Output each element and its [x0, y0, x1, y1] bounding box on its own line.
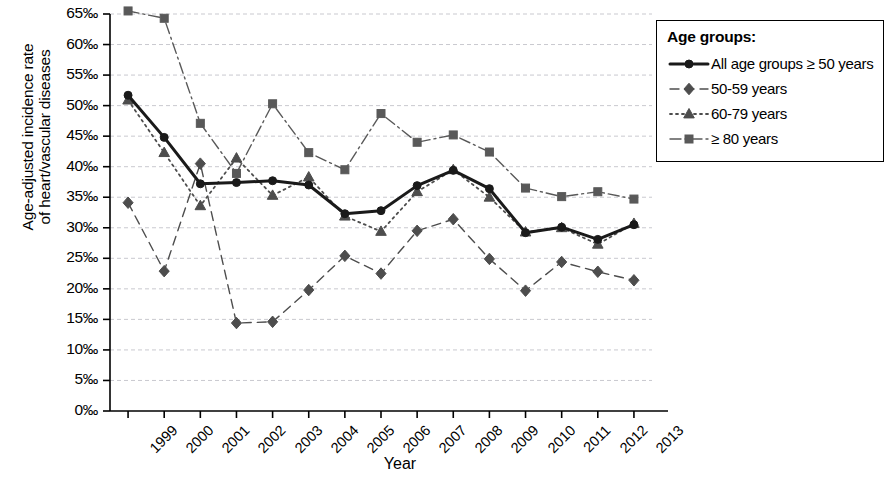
data-point-circle — [449, 166, 457, 174]
legend-title: Age groups: — [667, 28, 883, 46]
legend-label: 60-79 years — [711, 105, 787, 122]
data-point-square — [160, 14, 168, 22]
data-point-square — [377, 110, 385, 118]
data-point-circle — [522, 229, 530, 237]
legend-item-diamond: 50-59 years — [667, 76, 883, 101]
legend-swatch-diamond — [667, 79, 711, 99]
data-point-diamond — [448, 213, 458, 225]
data-point-triangle — [684, 108, 695, 117]
data-point-circle — [196, 180, 204, 188]
data-point-circle — [685, 60, 693, 68]
series-square — [124, 7, 638, 203]
y-tick-label: 15‰ — [32, 309, 98, 327]
y-tick-label: 30‰ — [32, 218, 98, 236]
data-point-triangle — [231, 153, 242, 162]
data-point-circle — [377, 207, 385, 215]
y-tick-label: 5‰ — [32, 370, 98, 388]
data-point-diamond — [629, 275, 639, 287]
data-point-circle — [341, 210, 349, 218]
data-point-square — [522, 184, 530, 192]
data-point-square — [594, 188, 602, 196]
y-tick-label: 60‰ — [32, 35, 98, 53]
data-point-circle — [269, 177, 277, 185]
y-tick-label: 25‰ — [32, 248, 98, 266]
legend-label: 50-59 years — [711, 80, 787, 97]
y-tick-label: 65‰ — [32, 4, 98, 22]
data-point-circle — [232, 179, 240, 187]
chart-figure: Age-adjusted incidence rate of heart/vas… — [0, 0, 888, 483]
data-point-square — [449, 131, 457, 139]
y-tick-label: 20‰ — [32, 279, 98, 297]
data-point-triangle — [303, 172, 314, 181]
data-point-circle — [558, 223, 566, 231]
data-point-circle — [413, 182, 421, 190]
data-point-square — [196, 119, 204, 127]
legend-label: ≥ 80 years — [711, 130, 778, 147]
x-axis-label: Year — [270, 455, 530, 473]
y-tick-label: 0‰ — [32, 401, 98, 419]
data-point-circle — [124, 91, 132, 99]
y-tick-label: 10‰ — [32, 340, 98, 358]
data-point-diamond — [159, 265, 169, 277]
legend-rows: All age groups ≥ 50 years50-59 years60-7… — [667, 51, 883, 151]
data-point-triangle — [159, 147, 170, 156]
y-tick-label: 40‰ — [32, 157, 98, 175]
legend-label: All age groups ≥ 50 years — [711, 55, 874, 72]
data-point-diamond — [593, 266, 603, 278]
data-point-circle — [485, 185, 493, 193]
data-point-square — [685, 135, 693, 143]
data-point-diamond — [520, 285, 530, 297]
legend-swatch-circle — [667, 54, 711, 74]
series-line — [128, 11, 634, 199]
y-tick-label: 45‰ — [32, 126, 98, 144]
legend-swatch-triangle — [667, 104, 711, 124]
data-point-square — [305, 149, 313, 157]
data-point-square — [413, 138, 421, 146]
legend-swatch-square — [667, 129, 711, 149]
legend-item-circle: All age groups ≥ 50 years — [667, 51, 883, 76]
data-point-circle — [594, 235, 602, 243]
legend-item-triangle: 60-79 years — [667, 101, 883, 126]
data-point-circle — [630, 221, 638, 229]
data-point-diamond — [123, 197, 133, 209]
data-point-diamond — [684, 83, 694, 95]
data-point-square — [269, 100, 277, 108]
data-point-square — [341, 166, 349, 174]
data-point-circle — [160, 133, 168, 141]
data-point-circle — [305, 181, 313, 189]
data-point-square — [232, 169, 240, 177]
data-point-square — [124, 7, 132, 15]
legend-item-square: ≥ 80 years — [667, 126, 883, 151]
legend: Age groups: All age groups ≥ 50 years50-… — [656, 20, 884, 162]
y-tick-label: 35‰ — [32, 187, 98, 205]
data-point-diamond — [195, 158, 205, 170]
series-line — [128, 164, 634, 323]
data-point-square — [485, 148, 493, 156]
data-point-square — [558, 193, 566, 201]
y-tick-label: 55‰ — [32, 65, 98, 83]
data-point-square — [630, 195, 638, 203]
y-tick-label: 50‰ — [32, 96, 98, 114]
